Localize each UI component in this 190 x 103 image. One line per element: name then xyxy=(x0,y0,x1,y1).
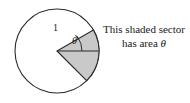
radius-length-label: 1 xyxy=(53,23,58,33)
caption-line-2-text: has area xyxy=(122,37,160,49)
sector-area-figure: 1 θ This shaded sector has area θ xyxy=(0,0,190,103)
sector-caption: This shaded sector has area θ xyxy=(99,22,189,50)
caption-line-2: has area θ xyxy=(99,36,189,50)
angle-theta-label: θ xyxy=(72,36,77,46)
caption-line-1: This shaded sector xyxy=(99,22,189,36)
figure-canvas xyxy=(0,0,190,103)
caption-theta-symbol: θ xyxy=(161,37,166,49)
